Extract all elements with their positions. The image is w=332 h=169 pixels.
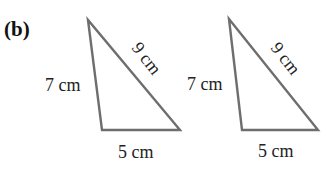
triangle-2: 7 cm 5 cm 9 cm [187, 19, 318, 161]
part-label: (b) [4, 17, 30, 41]
triangle-1-left-side-label: 7 cm [45, 75, 81, 95]
diagram-canvas: (b) 7 cm 5 cm 9 cm 7 cm 5 cm 9 cm [0, 0, 332, 169]
triangle-1-base-label: 5 cm [118, 142, 154, 162]
triangle-1: 7 cm 5 cm 9 cm [45, 20, 180, 162]
triangle-2-left-side-label: 7 cm [187, 74, 223, 94]
triangle-1-shape [88, 20, 180, 130]
triangle-2-base-label: 5 cm [258, 141, 294, 161]
triangle-1-hypotenuse-label: 9 cm [128, 38, 166, 78]
triangle-2-shape [229, 19, 318, 130]
